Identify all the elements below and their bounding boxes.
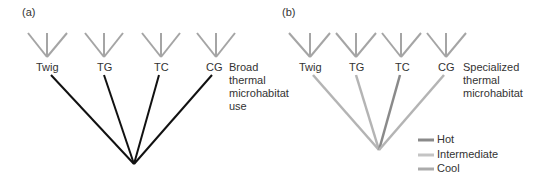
trident-icon [336,33,376,57]
taxon-label: TG [349,61,364,74]
taxon-label: TG [97,61,112,74]
trident-icon [197,33,235,57]
panel-a-note: Broad thermal microhabitat use [229,61,289,113]
panel-a-label: (a) [22,6,35,19]
trident-icon [382,33,421,57]
panel-b-tridents [289,33,466,57]
trident-icon [289,33,330,57]
taxon-label: TC [395,61,410,74]
legend-swatches [418,140,434,169]
taxon-label: Twig [299,61,322,74]
legend-hot-label: Hot [437,133,454,146]
legend-cool-label: Cool [437,162,460,175]
trident-icon [427,33,466,57]
panel-a-tridents [28,33,235,57]
panel-b-note: Specialized thermal microhabitat [463,61,523,100]
taxon-label: Twig [36,61,59,74]
trident-icon [28,33,67,57]
panel-a-branches [51,75,212,164]
taxon-label: CG [438,61,455,74]
trident-icon [85,33,123,57]
legend-intermediate-label: Intermediate [437,148,498,161]
panel-b-label: (b) [282,6,295,19]
taxon-label: TC [154,61,169,74]
trident-icon [142,33,180,57]
taxon-label: CG [206,61,223,74]
